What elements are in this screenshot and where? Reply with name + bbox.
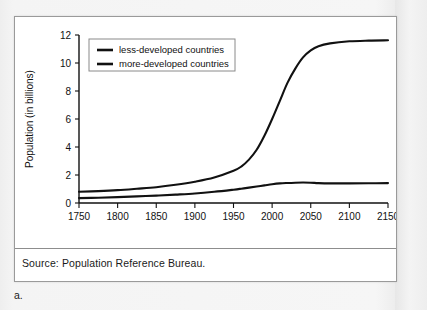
x-tick-label: 2000 xyxy=(261,211,284,222)
y-tick-label: 12 xyxy=(60,30,72,41)
y-tick-label: 4 xyxy=(65,142,71,153)
x-tick-label: 2150 xyxy=(377,211,396,222)
y-tick-label: 8 xyxy=(65,86,71,97)
page-edge-shadow xyxy=(395,0,427,310)
x-tick-label: 2100 xyxy=(338,211,361,222)
source-divider xyxy=(15,248,396,249)
y-tick-label: 6 xyxy=(65,114,71,125)
y-axis-title: Population (in billions) xyxy=(24,70,35,168)
x-tick-label: 2050 xyxy=(300,211,323,222)
figure-panel: 0246810121750180018501900195020002050210… xyxy=(14,16,397,282)
figure-caption-label: a. xyxy=(14,289,23,301)
chart-plot-area: 0246810121750180018501900195020002050210… xyxy=(15,17,396,245)
y-tick-label: 2 xyxy=(65,170,71,181)
x-tick-label: 1850 xyxy=(145,211,168,222)
source-note: Source: Population Reference Bureau. xyxy=(22,257,205,269)
legend-label-1: less-developed countries xyxy=(119,44,224,55)
y-tick-label: 0 xyxy=(65,198,71,209)
x-tick-label: 1800 xyxy=(107,211,130,222)
x-tick-label: 1900 xyxy=(184,211,207,222)
page-background: 0246810121750180018501900195020002050210… xyxy=(0,0,427,310)
x-tick-label: 1950 xyxy=(222,211,245,222)
population-line-chart: 0246810121750180018501900195020002050210… xyxy=(15,17,396,245)
legend-label-2: more-developed countries xyxy=(119,58,229,69)
x-tick-label: 1750 xyxy=(68,211,91,222)
y-tick-label: 10 xyxy=(60,58,72,69)
